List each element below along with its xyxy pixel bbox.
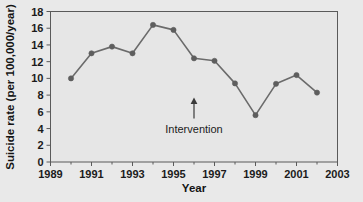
data-point	[314, 90, 319, 95]
data-point	[89, 51, 94, 56]
y-tick-label: 18	[31, 6, 43, 18]
x-tick-label: 2001	[284, 168, 308, 180]
data-point	[130, 51, 135, 56]
y-tick-label: 0	[37, 156, 43, 168]
data-point	[171, 27, 176, 32]
y-tick-label: 6	[37, 106, 43, 118]
x-tick-label: 1991	[79, 168, 103, 180]
y-tick-label: 2	[37, 139, 43, 151]
x-tick-label: 1993	[120, 168, 144, 180]
data-point	[232, 81, 237, 86]
y-tick-label: 8	[37, 89, 43, 101]
data-point	[294, 72, 299, 77]
x-tick-label: 1997	[202, 168, 226, 180]
chart-figure: 024681012141618 198919911993199519971999…	[0, 0, 363, 202]
data-point	[253, 113, 258, 118]
y-tick-label: 4	[37, 123, 44, 135]
data-point	[68, 76, 73, 81]
x-tick-label: 2003	[325, 168, 349, 180]
data-point	[150, 22, 155, 27]
suicide-rate-line-chart: 024681012141618 198919911993199519971999…	[0, 0, 363, 202]
x-tick-label: 1989	[38, 168, 62, 180]
y-tick-label: 14	[31, 39, 44, 51]
data-point	[109, 44, 114, 49]
x-axis-title: Year	[182, 182, 207, 194]
x-tick-label: 1995	[161, 168, 185, 180]
intervention-label: Intervention	[165, 123, 222, 135]
y-tick-label: 16	[31, 22, 43, 34]
data-point	[191, 56, 196, 61]
x-tick-label: 1999	[243, 168, 267, 180]
plot-area	[51, 12, 338, 163]
y-tick-label: 10	[31, 72, 43, 84]
y-axis-title: Suicide rate (per 100,000/year)	[4, 4, 16, 170]
data-point	[273, 81, 278, 86]
y-tick-label: 12	[31, 56, 43, 68]
data-point	[212, 58, 217, 63]
